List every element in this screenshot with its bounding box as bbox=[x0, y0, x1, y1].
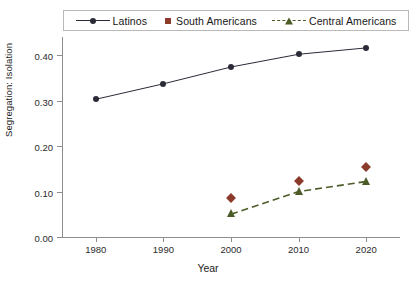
y-axis-tick-label: 0.30 bbox=[35, 96, 54, 107]
legend-key-latinos bbox=[76, 15, 110, 26]
x-axis-tick-label: 2010 bbox=[288, 244, 309, 255]
x-axis-tick bbox=[299, 237, 300, 242]
y-axis-title: Segregation: Isolation bbox=[3, 43, 14, 137]
data-point-marker bbox=[228, 64, 234, 70]
chart-figure: Latinos South Americans Central American… bbox=[0, 0, 416, 287]
legend-item-central-americans: Central Americans bbox=[272, 15, 396, 27]
y-axis-tick-label: 0.20 bbox=[35, 142, 54, 153]
x-axis-tick bbox=[366, 237, 367, 242]
legend-item-latinos: Latinos bbox=[76, 15, 148, 27]
legend-item-south-americans: South Americans bbox=[162, 15, 257, 27]
legend-label-latinos: Latinos bbox=[113, 15, 148, 27]
chart-legend: Latinos South Americans Central American… bbox=[63, 10, 409, 31]
x-axis-tick-label: 1990 bbox=[153, 244, 174, 255]
x-axis-tick bbox=[96, 237, 97, 242]
legend-label-south-americans: South Americans bbox=[176, 15, 257, 27]
y-axis-tick-label: 0.00 bbox=[35, 233, 54, 244]
data-point-marker bbox=[363, 45, 369, 51]
x-axis-tick bbox=[163, 237, 164, 242]
series-line bbox=[96, 48, 366, 99]
legend-key-central-americans bbox=[272, 15, 306, 26]
data-point-marker bbox=[295, 187, 303, 195]
x-axis-tick-label: 2000 bbox=[220, 244, 241, 255]
data-point-marker bbox=[227, 209, 235, 217]
y-axis-tick-label: 0.40 bbox=[35, 51, 54, 62]
x-axis-tick bbox=[231, 237, 232, 242]
x-axis-tick-label: 1980 bbox=[85, 244, 106, 255]
x-axis-tick-label: 2020 bbox=[356, 244, 377, 255]
data-point-marker bbox=[160, 81, 166, 87]
data-point-marker bbox=[93, 96, 99, 102]
legend-key-south-americans bbox=[162, 15, 173, 26]
data-point-marker bbox=[362, 177, 370, 185]
plot-area: 0.000.100.200.300.4019801990200020102020 bbox=[62, 37, 400, 237]
x-axis-title: Year bbox=[0, 262, 416, 274]
legend-label-central-americans: Central Americans bbox=[309, 15, 396, 27]
y-axis-tick: 0.00 bbox=[57, 237, 62, 238]
data-point-marker bbox=[296, 51, 302, 57]
y-axis-tick-label: 0.10 bbox=[35, 187, 54, 198]
